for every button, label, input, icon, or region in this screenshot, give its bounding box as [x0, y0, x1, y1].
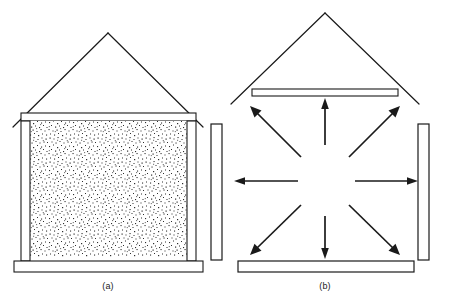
panel-b-detached-side-panel: [418, 124, 429, 260]
panel-b-caption: (b): [303, 281, 347, 291]
panel-a-bottom-beam: [14, 261, 203, 272]
panel-a-caption: (a): [86, 281, 130, 291]
panel-a-right-wall: [187, 121, 196, 261]
arrow-down-left: [250, 205, 301, 255]
arrow-down-right: [349, 205, 400, 255]
panel-b-force-arrows: [234, 98, 418, 259]
panel-b-bottom-beam: [238, 261, 414, 272]
panel-a-detached-side-panel: [211, 124, 222, 260]
panel-a-stippled-fill: [30, 121, 187, 257]
arrow-right: [355, 177, 418, 185]
arrow-up-right: [349, 106, 400, 157]
arrow-left: [234, 177, 298, 185]
panel-b: [231, 13, 429, 272]
figure-container: (a) (b): [0, 0, 450, 302]
arrow-down: [321, 216, 329, 259]
panel-a: [13, 33, 222, 272]
arrow-up-left: [250, 106, 301, 157]
panel-a-left-wall: [21, 121, 30, 261]
panel-b-top-beam: [252, 89, 398, 96]
arrow-up: [321, 98, 329, 145]
diagram-svg: [0, 0, 450, 302]
panel-a-top-beam: [21, 113, 196, 121]
